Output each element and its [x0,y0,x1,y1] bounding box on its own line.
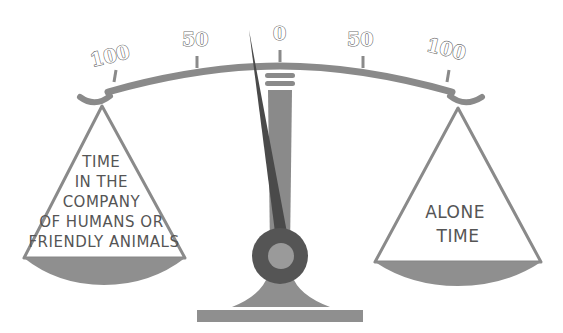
right-pan-line-1: ALONE [425,202,485,222]
left-pan-line-2: IN THE [75,173,128,191]
tick-label-left-100: 100 [88,40,132,71]
balance-scale-diagram: 100 50 0 50 100 TIME IN THE COMPANY OF H… [0,0,563,333]
right-pan-line-2: TIME [436,226,480,246]
left-pan-line-3: COMPANY [63,193,141,211]
tick-label-center-0: 0 [273,22,286,44]
left-pan-line-5: FRIENDLY ANIMALS [28,233,179,251]
pivot [252,228,308,284]
left-pan: TIME IN THE COMPANY OF HUMANS OR FRIENDL… [24,106,185,285]
tick-label-right-50: 50 [347,28,373,50]
tick-label-right-100: 100 [424,33,468,64]
tick-label-left-50: 50 [182,28,208,50]
left-pan-line-1: TIME [81,153,120,171]
right-pan: ALONE TIME [375,108,541,286]
left-pan-line-4: OF HUMANS OR [39,213,163,231]
